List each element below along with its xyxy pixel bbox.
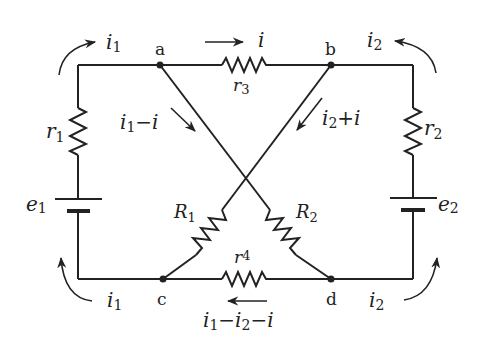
current-label-bottom-right: i2 (369, 288, 384, 313)
current-label-top-right: i2 (367, 28, 382, 53)
diagonal-R1-to-c (163, 255, 196, 279)
resistor-R2 (266, 210, 299, 255)
node-c-label: c (157, 289, 167, 309)
node-b-label: b (325, 39, 336, 59)
label-r1: r1 (46, 119, 64, 145)
label-e1: e1 (26, 192, 47, 216)
label-R1: R1 (173, 201, 196, 225)
label-R2: R2 (295, 201, 318, 225)
battery-e2 (390, 198, 437, 210)
label-e2: e2 (438, 192, 459, 216)
resistor-R1 (193, 210, 226, 255)
label-r4: r4 (234, 247, 250, 267)
resistor-r4 (222, 272, 270, 286)
circuit-diagram: a b c d r1 r2 r3 r4 R1 R2 e1 e2 i1 i2 i1… (0, 0, 478, 354)
resistor-r2 (405, 108, 421, 155)
current-label-r3: i (258, 28, 264, 52)
resistor-r1 (70, 108, 86, 155)
battery-e1 (55, 199, 102, 211)
current-label-a-to-d: i1−i (120, 110, 159, 135)
node-b-dot (328, 62, 335, 69)
label-r2: r2 (424, 116, 442, 142)
node-d-label: d (326, 289, 337, 309)
current-label-bottom-left: i1 (107, 288, 122, 313)
label-r3: r3 (233, 75, 249, 97)
current-label-b-to-c: i2+i (322, 106, 361, 131)
node-c-dot (160, 276, 167, 283)
current-arrow-b-to-c (297, 98, 322, 130)
diagonal-a-to-d (160, 65, 270, 210)
resistor-r3 (222, 58, 270, 72)
diagonal-R2-to-d (296, 255, 331, 279)
node-d-dot (328, 276, 335, 283)
current-arrow-top-right (395, 41, 436, 73)
current-arrow-a-to-d (171, 108, 195, 131)
current-label-r4: i1−i2−i (203, 308, 274, 333)
current-label-top-left: i1 (106, 30, 121, 55)
node-a-dot (157, 62, 164, 69)
node-a-label: a (155, 39, 165, 59)
